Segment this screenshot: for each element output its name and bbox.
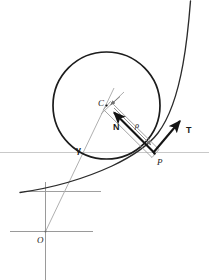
- point-P-marker: [153, 152, 155, 154]
- label-origin-O: O: [37, 236, 44, 245]
- rho-measure-arrow: [114, 108, 151, 145]
- rho-dimension-lower-edge: [104, 110, 153, 158]
- point-C-marker: [105, 104, 107, 106]
- label-tangent-T: T: [186, 126, 192, 135]
- tangent-vector-T[interactable]: [153, 121, 180, 153]
- label-radius-rho: ρ: [135, 121, 139, 130]
- label-center-C: C: [98, 99, 104, 108]
- normal-vector-N[interactable]: [114, 113, 154, 153]
- label-curve-gamma: γ: [76, 146, 81, 155]
- point-O-marker: [45, 231, 47, 233]
- curvature-diagram: C N ρ T P γ O: [0, 0, 209, 280]
- label-normal-N: N: [113, 123, 120, 132]
- label-point-P: P: [157, 158, 163, 167]
- diagram-canvas: [0, 0, 209, 280]
- center-guide-arrow: [111, 97, 121, 106]
- curve-gamma: [20, 1, 191, 193]
